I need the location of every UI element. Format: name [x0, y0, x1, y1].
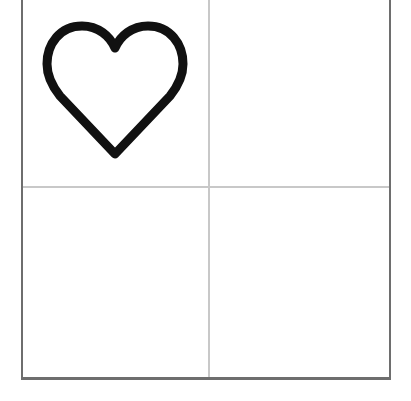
- grid-cell-bottom-left[interactable]: [23, 188, 208, 377]
- vertical-divider: [208, 0, 210, 377]
- grid-cell-top-right[interactable]: [210, 0, 389, 186]
- heart-outline-icon: [40, 18, 190, 162]
- horizontal-divider: [23, 186, 389, 188]
- grid-cell-bottom-right[interactable]: [210, 188, 389, 377]
- canvas: [0, 0, 411, 401]
